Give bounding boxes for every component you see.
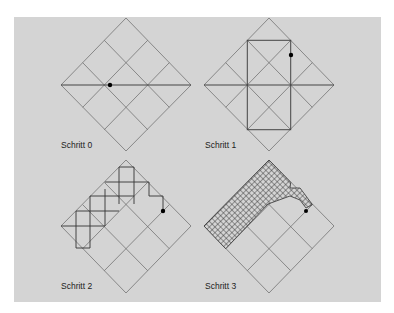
label-step2: Schritt 2 — [61, 281, 92, 291]
label-step1: Schritt 1 — [205, 140, 236, 150]
marker-dot — [161, 209, 165, 213]
diagram-canvas — [0, 0, 394, 313]
diagram-step0 — [61, 18, 191, 151]
diagram-step2 — [61, 160, 191, 293]
label-step3: Schritt 3 — [205, 281, 236, 291]
diagram-step1 — [204, 18, 334, 151]
marker-dot — [108, 83, 112, 87]
marker-dot — [304, 209, 308, 213]
label-step0: Schritt 0 — [61, 140, 92, 150]
diagram-step3 — [204, 160, 334, 293]
marker-dot — [289, 53, 293, 57]
